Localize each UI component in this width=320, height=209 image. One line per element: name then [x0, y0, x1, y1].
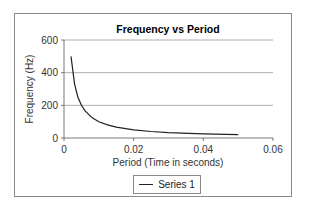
y-tick-label: 0: [52, 133, 58, 144]
y-tick-label: 200: [41, 100, 58, 111]
legend-line-icon: [139, 184, 153, 185]
y-axis-label: Frequency (Hz): [24, 55, 35, 124]
x-tick-label: 0.02: [124, 144, 144, 155]
y-axis-ticks: 0200400600: [41, 35, 58, 144]
y-tick-label: 600: [41, 35, 58, 46]
x-axis-label: Period (Time in seconds): [113, 157, 224, 168]
legend: Series 1: [133, 175, 201, 194]
x-tick-label: 0: [61, 144, 67, 155]
x-tick-label: 0.04: [194, 144, 214, 155]
x-tick-label: 0.06: [263, 144, 283, 155]
gridlines: [64, 40, 273, 105]
axes: [61, 40, 273, 141]
chart-title: Frequency vs Period: [116, 23, 219, 35]
legend-label: Series 1: [158, 179, 195, 190]
x-axis-ticks: 00.020.040.06: [61, 144, 283, 155]
y-tick-label: 400: [41, 67, 58, 78]
series-1-line: [71, 56, 238, 134]
